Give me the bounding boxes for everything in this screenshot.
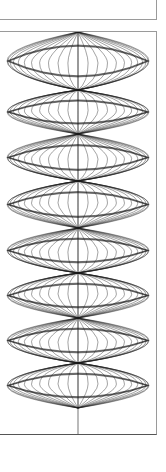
standing-wave-figure [0, 32, 156, 434]
top-panel [0, 0, 157, 20]
plot-frame [0, 31, 157, 435]
